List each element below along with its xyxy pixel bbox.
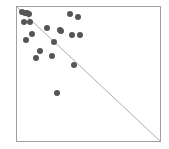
- data-point: [33, 55, 39, 61]
- data-point: [49, 53, 55, 59]
- data-point: [44, 25, 50, 31]
- data-point: [54, 90, 60, 96]
- data-point: [21, 19, 27, 25]
- scatter-chart: [0, 0, 169, 149]
- data-point: [67, 11, 73, 17]
- data-point: [29, 31, 35, 37]
- data-points: [19, 9, 83, 96]
- data-point: [51, 39, 57, 45]
- data-point: [77, 32, 83, 38]
- data-point: [27, 19, 33, 25]
- reference-diagonal-line: [16, 6, 160, 141]
- data-point: [71, 62, 77, 68]
- data-point: [75, 14, 81, 20]
- data-point: [58, 28, 64, 34]
- data-point: [26, 11, 32, 17]
- data-point: [23, 37, 29, 43]
- data-point: [37, 48, 43, 54]
- data-point: [69, 32, 75, 38]
